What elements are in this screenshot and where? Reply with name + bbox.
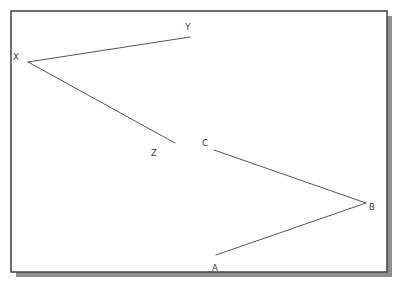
label-b: B [369, 202, 375, 212]
label-x: X [13, 52, 19, 62]
label-z: Z [151, 148, 157, 158]
label-a: A [212, 263, 218, 273]
label-c: C [202, 138, 208, 148]
diagram-canvas: Y X Z C B A [0, 0, 402, 288]
diagram-frame [11, 11, 387, 272]
label-y: Y [184, 22, 191, 32]
geometry-diagram: Y X Z C B A [0, 0, 402, 288]
